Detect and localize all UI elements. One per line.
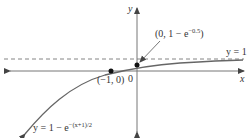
point-neg1-0: [109, 69, 114, 74]
point-0-y0: [135, 63, 140, 68]
intercept-label-exponent: −0.5: [188, 27, 200, 34]
y-axis-label: y: [128, 4, 132, 14]
x-axis-label: x: [240, 74, 244, 84]
graph-canvas: [0, 0, 248, 138]
point-label-neg1: (−1, 0): [97, 75, 124, 85]
equation-prefix: y = 1 − e: [33, 122, 69, 133]
equation-exponent: −(x+1)/2: [69, 121, 92, 128]
point-label-intercept: (0, 1 − e−0.5): [155, 28, 204, 39]
pointer-arrow: [140, 41, 160, 62]
intercept-label-suffix: ): [200, 28, 203, 39]
origin-label: 0: [128, 74, 133, 84]
asymptote-label: y = 1: [226, 47, 247, 57]
curve-equation-label: y = 1 − e−(x+1)/2: [33, 122, 92, 133]
intercept-label-prefix: (0, 1 − e: [155, 28, 188, 39]
